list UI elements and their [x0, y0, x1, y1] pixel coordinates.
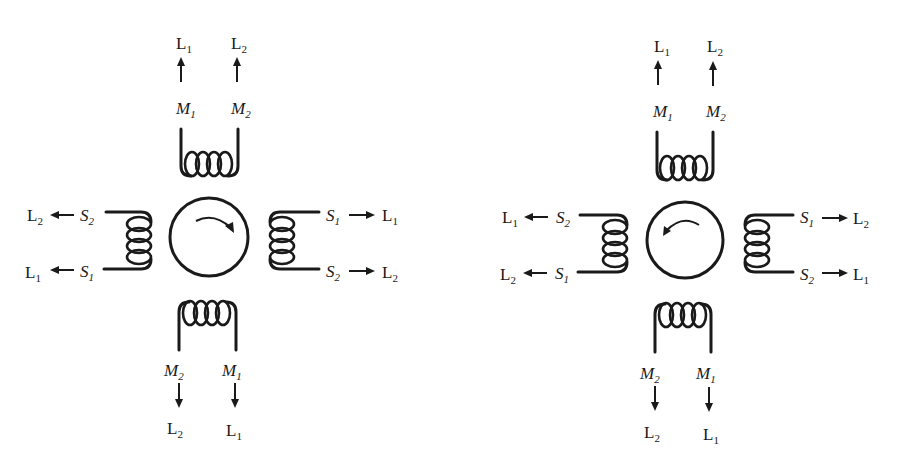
label-west-l-bot: L2 — [500, 265, 516, 286]
label-top-m1: M1 — [652, 102, 673, 123]
lead-arrow-up-icon — [654, 60, 662, 85]
label-west-l-top: L2 — [27, 206, 43, 227]
lead-arrow-right-icon — [349, 211, 375, 219]
label-east-s-bot: S2 — [326, 262, 341, 283]
label-east-s-top: S1 — [326, 206, 340, 227]
lead-arrow-down-icon — [705, 387, 713, 412]
label-west-l-top: L1 — [502, 208, 518, 229]
lead-arrow-right-icon — [822, 214, 848, 222]
label-bottom-l2: L2 — [167, 419, 183, 440]
diagram-right: L1 L2 M1 M2 M2 M1 L2 L1 L1 — [500, 37, 869, 446]
label-west-s-bot: S1 — [80, 262, 94, 283]
start-winding-west — [104, 212, 151, 269]
label-west-s-bot: S1 — [555, 264, 569, 285]
label-west-l-bot: L1 — [25, 263, 41, 284]
motor-connection-diagrams: L1 L2 M1 M2 M2 M1 L2 L1 L2 — [0, 0, 899, 469]
label-top-l1: L1 — [654, 37, 670, 58]
lead-arrow-left-icon — [523, 269, 547, 277]
label-bottom-m1: M1 — [695, 364, 716, 385]
diagram-left: L1 L2 M1 M2 M2 M1 L2 L1 L2 — [25, 34, 398, 442]
start-winding-west — [578, 215, 627, 272]
clockwise-rotation-arrow-icon — [196, 218, 234, 233]
lead-arrow-left-icon — [524, 213, 548, 221]
main-winding-top — [657, 132, 713, 180]
lead-arrow-down-icon — [651, 386, 659, 411]
label-top-m1: M1 — [175, 99, 196, 120]
lead-arrow-down-icon — [175, 383, 183, 408]
label-east-s-bot: S2 — [800, 265, 815, 286]
lead-arrow-right-icon — [349, 267, 375, 275]
start-winding-east — [745, 215, 793, 272]
main-winding-top — [181, 129, 238, 176]
counterclockwise-rotation-arrow-icon — [663, 221, 699, 236]
main-winding-bottom — [655, 303, 711, 352]
lead-arrow-up-icon — [233, 57, 241, 82]
label-top-l2: L2 — [707, 37, 723, 58]
label-bottom-l1: L1 — [226, 421, 242, 442]
label-east-l-bot: L1 — [853, 265, 869, 286]
lead-arrow-up-icon — [709, 61, 717, 86]
start-winding-east — [270, 212, 319, 269]
label-east-l-top: L2 — [853, 209, 869, 230]
lead-arrow-left-icon — [50, 266, 74, 274]
main-winding-bottom — [179, 301, 236, 350]
lead-arrow-left-icon — [50, 211, 74, 219]
rotor-circle — [170, 198, 248, 276]
label-west-s-top: S2 — [80, 206, 95, 227]
lead-arrow-down-icon — [231, 383, 239, 408]
lead-arrow-right-icon — [822, 269, 848, 277]
label-top-m2: M2 — [705, 102, 726, 123]
label-east-l-top: L1 — [382, 206, 398, 227]
label-bottom-l1: L1 — [703, 425, 719, 446]
rotor-circle — [647, 202, 723, 278]
label-east-l-bot: L2 — [382, 263, 398, 284]
label-east-s-top: S1 — [800, 208, 814, 229]
label-bottom-l2: L2 — [644, 423, 660, 444]
label-bottom-m2: M2 — [639, 364, 660, 385]
label-top-l2: L2 — [231, 34, 247, 55]
label-top-l1: L1 — [176, 34, 192, 55]
lead-arrow-up-icon — [177, 57, 185, 82]
label-bottom-m2: M2 — [163, 361, 184, 382]
label-bottom-m1: M1 — [221, 361, 242, 382]
label-west-s-top: S2 — [556, 208, 571, 229]
label-top-m2: M2 — [230, 99, 251, 120]
